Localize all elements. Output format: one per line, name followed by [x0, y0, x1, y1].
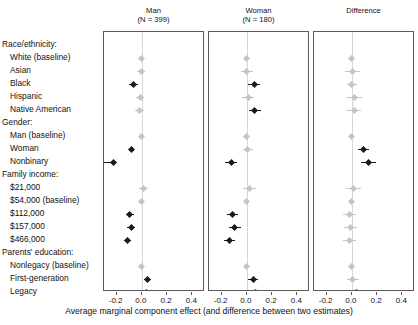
- point-estimate: [349, 67, 356, 74]
- row-group-header: Race/ethnicity:: [2, 40, 98, 48]
- point-estimate: [226, 236, 233, 243]
- row-group-header: Gender:: [2, 118, 98, 126]
- point-estimate: [246, 184, 253, 191]
- row-label: Nonbinary: [10, 157, 98, 165]
- point-estimate: [250, 275, 257, 282]
- row-label: First-generation: [10, 274, 98, 282]
- point-estimate: [348, 54, 355, 61]
- row-label: $54,000 (baseline): [10, 196, 98, 204]
- row-group-header: Family income:: [2, 170, 98, 178]
- row-group-header: Parents' education:: [2, 248, 98, 256]
- point-estimate: [231, 223, 238, 230]
- plot-panel: [103, 31, 204, 291]
- panel-sample-size: (N = 180): [208, 15, 309, 24]
- panel-title-text: Man: [146, 6, 161, 15]
- row-label: Native American: [10, 105, 98, 113]
- point-estimate: [126, 210, 133, 217]
- row-label: Black: [10, 79, 98, 87]
- point-estimate: [138, 262, 145, 269]
- point-estimate: [243, 132, 250, 139]
- row-label: Asian: [10, 66, 98, 74]
- point-estimate: [348, 197, 355, 204]
- point-estimate: [251, 80, 258, 87]
- row-label: Woman: [10, 144, 98, 152]
- point-estimate: [348, 80, 355, 87]
- x-axis-caption: Average marginal component effect (and d…: [0, 306, 418, 316]
- plot-panel: [313, 31, 414, 291]
- point-estimate: [360, 145, 367, 152]
- plot-panel: [208, 31, 309, 291]
- point-estimate: [353, 288, 360, 291]
- point-estimate: [243, 67, 250, 74]
- point-estimate: [351, 93, 358, 100]
- point-estimate: [124, 236, 131, 243]
- panel-sample-size: (N = 399): [103, 15, 204, 24]
- panel-title-text: Woman: [245, 6, 271, 15]
- point-estimate: [243, 262, 250, 269]
- panel-title-text: Difference: [346, 6, 380, 15]
- point-estimate: [128, 145, 135, 152]
- point-estimate: [348, 132, 355, 139]
- panel-title: Difference: [313, 6, 414, 15]
- panel-title: Man(N = 399): [103, 6, 204, 25]
- point-estimate: [244, 145, 251, 152]
- row-label: Hispanic: [10, 92, 98, 100]
- panel-title: Woman(N = 180): [208, 6, 309, 25]
- point-estimate: [130, 80, 137, 87]
- point-estimate: [138, 197, 145, 204]
- row-label: $157,000: [10, 222, 98, 230]
- point-estimate: [243, 197, 250, 204]
- point-estimate: [348, 262, 355, 269]
- point-estimate: [365, 158, 372, 165]
- point-estimate: [138, 54, 145, 61]
- point-estimate: [251, 106, 258, 113]
- point-estimate: [128, 223, 135, 230]
- point-estimate: [138, 67, 145, 74]
- row-label: $112,000: [10, 209, 98, 217]
- forest-plot-figure: Race/ethnicity:White (baseline)AsianBlac…: [0, 0, 418, 325]
- row-label-column: Race/ethnicity:White (baseline)AsianBlac…: [0, 0, 101, 325]
- point-estimate: [229, 210, 236, 217]
- point-estimate: [138, 132, 145, 139]
- point-estimate: [252, 288, 259, 291]
- point-estimate: [243, 54, 250, 61]
- point-estimate: [349, 275, 356, 282]
- row-label: Nonlegacy (baseline): [10, 261, 98, 269]
- row-label: $466,000: [10, 235, 98, 243]
- row-label: $21,000: [10, 183, 98, 191]
- row-label: White (baseline): [10, 53, 98, 61]
- point-estimate: [144, 275, 151, 282]
- point-estimate: [143, 288, 150, 291]
- point-estimate: [110, 158, 117, 165]
- point-estimate: [228, 158, 235, 165]
- row-label: Legacy: [10, 287, 98, 295]
- row-label: Man (baseline): [10, 131, 98, 139]
